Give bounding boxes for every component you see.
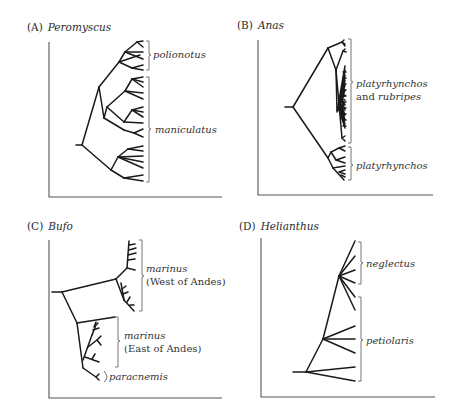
panel-b-title: (B)Anas bbox=[237, 19, 285, 31]
brace-platyrhynchos bbox=[348, 147, 353, 180]
panel-d-tree bbox=[293, 241, 355, 381]
clade-label-maniculatus: maniculatus bbox=[155, 124, 217, 135]
panel-d: (D)Helianthus neglectus petiolaris bbox=[239, 220, 435, 397]
clade-label-petiolaris: petiolaris bbox=[366, 335, 414, 346]
panel-d-title: (D)Helianthus bbox=[239, 220, 319, 232]
brace-paracnemis bbox=[104, 371, 107, 382]
clade-label-paracnemis: paracnemis bbox=[109, 371, 168, 382]
brace-marinus-west bbox=[139, 240, 144, 311]
clade-label-marinus-east-line1: marinus bbox=[124, 330, 165, 341]
clade-label-marinus-east-line2: (East of Andes) bbox=[124, 343, 202, 354]
clade-label-neglectus: neglectus bbox=[366, 258, 415, 269]
brace-platyrhynchos-rubripes bbox=[348, 39, 353, 143]
panel-c-tree bbox=[52, 241, 136, 380]
panel-a-title: (A)Peromyscus bbox=[27, 21, 112, 33]
clade-label-marinus-west-line2: (West of Andes) bbox=[146, 276, 226, 287]
panel-c: (C)Bufo bbox=[27, 220, 226, 398]
brace-marinus-east bbox=[115, 317, 120, 367]
panel-a: (A)Peromyscus bbox=[27, 21, 222, 197]
phylogeny-figure: (A)Peromyscus bbox=[0, 0, 452, 416]
brace-polionotus bbox=[146, 41, 151, 70]
brace-maniculatus bbox=[146, 77, 151, 182]
panel-c-title: (C)Bufo bbox=[27, 220, 73, 232]
brace-petiolaris bbox=[358, 297, 363, 381]
clade-label-marinus-west-line1: marinus bbox=[146, 263, 187, 274]
clade-label-platyrhynchos-rubripes-line2: and rubripes bbox=[356, 91, 421, 102]
brace-neglectus bbox=[358, 242, 363, 284]
panel-b: (B)Anas bbox=[237, 19, 433, 195]
clade-label-platyrhynchos: platyrhynchos bbox=[356, 160, 428, 171]
clade-label-polionotus: polionotus bbox=[153, 49, 206, 60]
panel-b-axes bbox=[258, 40, 433, 195]
panel-a-axes bbox=[49, 42, 222, 197]
clade-label-platyrhynchos-rubripes-line1: platyrhynchos bbox=[356, 78, 428, 89]
panel-b-tree bbox=[285, 40, 346, 180]
panel-a-tree bbox=[76, 41, 143, 181]
